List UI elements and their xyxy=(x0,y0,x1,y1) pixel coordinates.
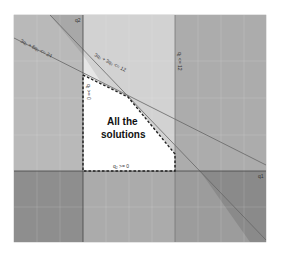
region-q1-gt-12-upper xyxy=(175,15,266,171)
x-axis-label: q1 xyxy=(258,173,264,179)
label-c3: q₁ <= 12 xyxy=(177,52,183,71)
label-c5: q₂ >= 0 xyxy=(113,163,129,169)
lp-diagram: 3q₁ + 6q₂ <= 24 3q₁ + 3q₂ <= 12 q₁ <= 12… xyxy=(0,0,281,255)
region-label-line1: All the xyxy=(107,116,138,127)
y-axis-label: q2 xyxy=(75,17,81,23)
region-q2-negative-left xyxy=(14,171,83,242)
region-label-line2: solutions xyxy=(101,129,146,140)
label-c4: q₁ >= 0 xyxy=(86,84,92,100)
